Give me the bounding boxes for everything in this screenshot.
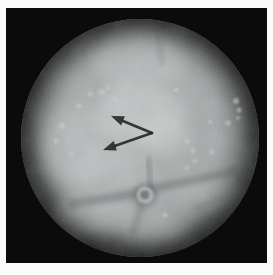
black-field xyxy=(6,8,267,263)
scope-view xyxy=(21,19,259,257)
grain-texture xyxy=(21,19,259,257)
endoscopy-photo xyxy=(0,0,273,275)
tissue-feature-layer xyxy=(21,19,259,257)
